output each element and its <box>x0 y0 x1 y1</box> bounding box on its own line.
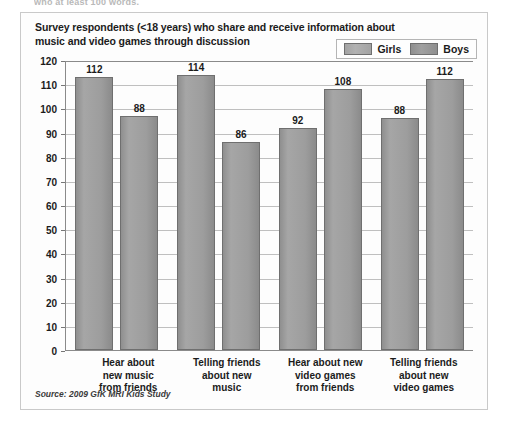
y-axis-tick-label: 40 <box>46 249 57 260</box>
cut-off-page-header: who at least 100 words. <box>34 0 234 6</box>
bar-boys[interactable]: 112 <box>426 61 464 350</box>
bar-group: 11486 <box>168 61 270 350</box>
y-axis-tick-label: 120 <box>40 56 57 67</box>
bar-value-label: 112 <box>437 66 453 77</box>
chart-figure: Survey respondents (<18 years) who share… <box>20 12 488 410</box>
legend-item-boys: Boys <box>410 43 469 55</box>
legend-label-girls: Girls <box>377 43 401 55</box>
category-label-line: Telling friends <box>375 357 474 370</box>
bar-boys[interactable]: 108 <box>324 61 362 350</box>
bar-girls[interactable]: 88 <box>381 61 419 350</box>
y-axis-tick-label: 20 <box>46 297 57 308</box>
bar-group: 92108 <box>270 61 372 350</box>
category-label-line: from friends <box>276 382 375 395</box>
category-label-line: Hear about <box>79 357 178 370</box>
bar-value-label: 86 <box>236 129 247 140</box>
y-axis-tick-label: 80 <box>46 152 57 163</box>
y-axis-tick-label: 60 <box>46 201 57 212</box>
bar-rect <box>222 142 260 350</box>
legend-item-girls: Girls <box>344 43 401 55</box>
bar-value-label: 114 <box>188 62 204 73</box>
legend-swatch-girls <box>344 43 372 55</box>
bar-value-label: 108 <box>335 76 352 87</box>
bar-girls[interactable]: 92 <box>279 61 317 350</box>
plot-area-wrapper: 0102030405060708090100110120 11288114869… <box>35 61 473 366</box>
bar-girls[interactable]: 112 <box>75 61 113 350</box>
bar-value-label: 88 <box>394 105 405 116</box>
y-axis-tick-label: 30 <box>46 273 57 284</box>
bar-rect <box>75 77 113 350</box>
category-label-line: music <box>178 382 277 395</box>
bar-rect <box>426 79 464 350</box>
bar-rect <box>279 128 317 350</box>
y-axis-tick-label: 100 <box>40 104 57 115</box>
bar-value-label: 88 <box>134 103 145 114</box>
bar-rect <box>381 118 419 350</box>
y-axis-tick-label: 0 <box>51 346 57 357</box>
y-axis-tick-label: 10 <box>46 321 57 332</box>
y-axis: 0102030405060708090100110120 <box>35 61 61 351</box>
category-label-line: Hear about new <box>276 357 375 370</box>
bar-boys[interactable]: 88 <box>120 61 158 350</box>
category-label-line: video games <box>375 382 474 395</box>
category-label-line: video games <box>276 370 375 383</box>
x-axis-category-label: Telling friendsabout newvideo games <box>375 357 474 395</box>
category-label-line: about new <box>375 370 474 383</box>
x-axis-category-label: Hear about newvideo gamesfrom friends <box>276 357 375 395</box>
bar-value-label: 92 <box>292 115 303 126</box>
x-axis-category-label: Telling friendsabout newmusic <box>178 357 277 395</box>
chart-legend: Girls Boys <box>336 39 477 59</box>
y-axis-tick-label: 90 <box>46 128 57 139</box>
y-axis-tick-mark <box>61 351 65 352</box>
bar-rect <box>120 116 158 350</box>
legend-label-boys: Boys <box>443 43 469 55</box>
bar-groups: 11288114869210888112 <box>66 61 473 350</box>
chart-source-note: Source: 2009 GfK MRI Kids Study <box>35 389 171 399</box>
bar-boys[interactable]: 86 <box>222 61 260 350</box>
bar-rect <box>324 89 362 350</box>
legend-swatch-boys <box>410 43 438 55</box>
bar-girls[interactable]: 114 <box>177 61 215 350</box>
category-label-line: Telling friends <box>178 357 277 370</box>
plot-area: 11288114869210888112 <box>65 61 473 351</box>
category-label-line: new music <box>79 370 178 383</box>
bar-group: 11288 <box>66 61 168 350</box>
y-axis-tick-label: 70 <box>46 176 57 187</box>
bar-value-label: 112 <box>86 64 102 75</box>
bar-rect <box>177 75 215 351</box>
category-label-line: about new <box>178 370 277 383</box>
y-axis-tick-label: 50 <box>46 225 57 236</box>
bar-group: 88112 <box>371 61 473 350</box>
y-axis-tick-label: 110 <box>41 80 57 91</box>
